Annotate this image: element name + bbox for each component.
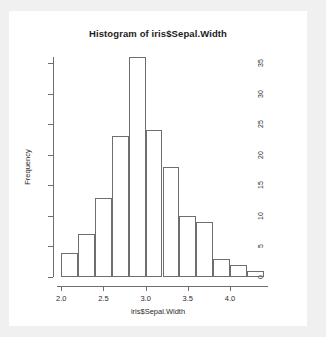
y-axis-tick — [48, 246, 53, 247]
histogram-bar — [146, 130, 163, 277]
plot-card: Histogram of iris$Sepal.Width Frequency … — [9, 11, 307, 326]
y-axis-tick — [48, 185, 53, 186]
histogram-bar — [213, 259, 230, 277]
x-axis-tick — [230, 286, 231, 291]
x-axis-tick-label: 3.5 — [173, 294, 203, 303]
x-axis-tick-label: 2.5 — [88, 294, 118, 303]
x-axis-tick — [188, 286, 189, 291]
plot-area — [57, 57, 268, 277]
y-axis-tick — [48, 155, 53, 156]
x-axis-tick — [103, 286, 104, 291]
x-axis-tick — [61, 286, 62, 291]
y-axis-tick — [48, 124, 53, 125]
y-axis-title: Frequency — [21, 57, 33, 277]
x-axis-tick-label: 4.0 — [215, 294, 245, 303]
histogram-bar — [230, 265, 247, 277]
y-axis-tick — [48, 63, 53, 64]
histogram-bar — [61, 253, 78, 277]
screenshot-root: Histogram of iris$Sepal.Width Frequency … — [0, 0, 326, 337]
histogram-bar — [163, 167, 180, 277]
histogram-bar — [179, 216, 196, 277]
histogram-bar — [112, 136, 129, 277]
histogram-bar — [95, 198, 112, 277]
y-axis-tick — [48, 94, 53, 95]
x-axis-tick — [146, 286, 147, 291]
x-axis-tick-label: 2.0 — [46, 294, 76, 303]
y-axis-title-label: Frequency — [23, 149, 32, 184]
histogram-bar — [196, 222, 213, 277]
y-axis-line — [53, 57, 54, 277]
histogram-bar — [78, 234, 95, 277]
chart-title: Histogram of iris$Sepal.Width — [9, 28, 307, 39]
y-axis-tick — [48, 216, 53, 217]
y-axis-tick — [48, 277, 53, 278]
x-axis-tick-label: 3.0 — [131, 294, 161, 303]
x-axis-line — [57, 286, 268, 287]
histogram-bar — [129, 57, 146, 277]
histogram-bar — [247, 271, 264, 277]
x-axis-title: iris$Sepal.Width — [9, 307, 307, 316]
